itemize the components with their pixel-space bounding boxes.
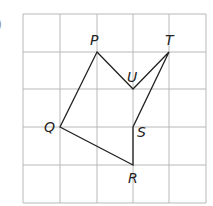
label-T: T [165,32,175,48]
cut-off-mark: ) [0,17,2,32]
label-R: R [128,170,138,186]
grid-lines [23,14,206,203]
label-U: U [127,69,137,85]
grid-diagram: ) P T U Q S R [0,0,213,206]
label-P: P [90,32,99,48]
polygon-PUTSRQ [60,52,169,165]
label-Q: Q [44,119,55,135]
label-S: S [137,124,146,140]
